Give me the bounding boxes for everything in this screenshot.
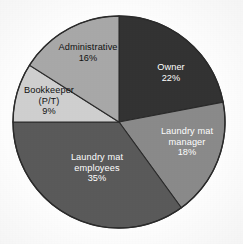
- pie-chart-svg: [0, 0, 243, 244]
- pie-slices-group: [13, 16, 225, 228]
- pie-chart: Owner 22% Laundry mat manager 18% Laundr…: [0, 0, 243, 244]
